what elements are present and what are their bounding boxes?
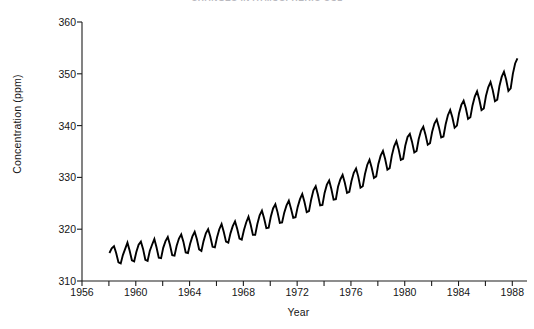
x-axis-tick-label: 1964 [167, 287, 213, 298]
axis-lines [82, 22, 527, 281]
y-axis-tick-label: 340 [46, 121, 76, 131]
x-axis-tick-label: 1972 [274, 287, 320, 298]
y-axis-title: Concentration (ppm) [11, 49, 23, 199]
y-axis-tick-label: 330 [46, 172, 76, 182]
y-axis-tick-marks [77, 22, 82, 281]
y-axis-tick-label: 360 [46, 17, 76, 27]
co2-concentration-line [109, 58, 517, 263]
x-axis-tick-labels: 195619601964196819721976198019841988 [82, 287, 515, 301]
x-axis-tick-label: 1980 [382, 287, 428, 298]
x-axis-tick-label: 1976 [328, 287, 374, 298]
x-axis-tick-label: 1988 [489, 287, 534, 298]
x-axis-title: Year [82, 306, 515, 318]
x-axis-tick-label: 1984 [436, 287, 482, 298]
y-axis-tick-label: 320 [46, 224, 76, 234]
x-axis-tick-label: 1956 [59, 287, 105, 298]
y-axis-tick-label: 350 [46, 69, 76, 79]
chart-canvas [0, 0, 534, 329]
x-axis-tick-label: 1968 [220, 287, 266, 298]
y-axis-tick-labels: 310320330340350360 [44, 22, 76, 281]
chart-figure: CHANGES IN ATMOSPHERIC CO2 3103203303403… [0, 0, 534, 329]
y-axis-tick-label: 310 [46, 276, 76, 286]
x-axis-tick-label: 1960 [113, 287, 159, 298]
